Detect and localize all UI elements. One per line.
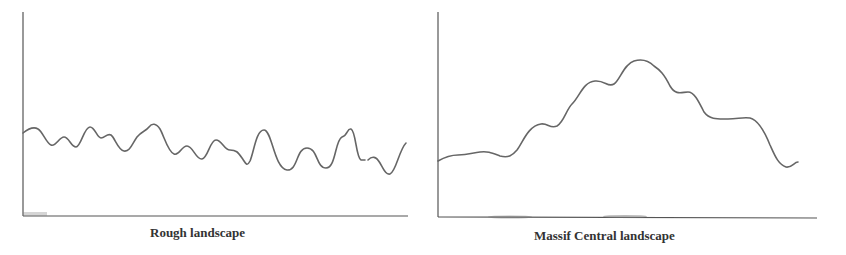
left-origin-smudge bbox=[23, 212, 47, 216]
rough-landscape-profile bbox=[23, 124, 406, 174]
right-baseline-smudge-2 bbox=[603, 215, 647, 218]
massif-central-caption: Massif Central landscape bbox=[534, 228, 675, 244]
massif-central-panel bbox=[438, 12, 817, 219]
right-baseline-smudge-1 bbox=[488, 215, 532, 218]
rough-landscape-caption: Rough landscape bbox=[150, 225, 245, 241]
massif-central-profile bbox=[438, 60, 798, 167]
rough-landscape-panel bbox=[23, 12, 408, 216]
landscape-diagram bbox=[0, 0, 846, 255]
